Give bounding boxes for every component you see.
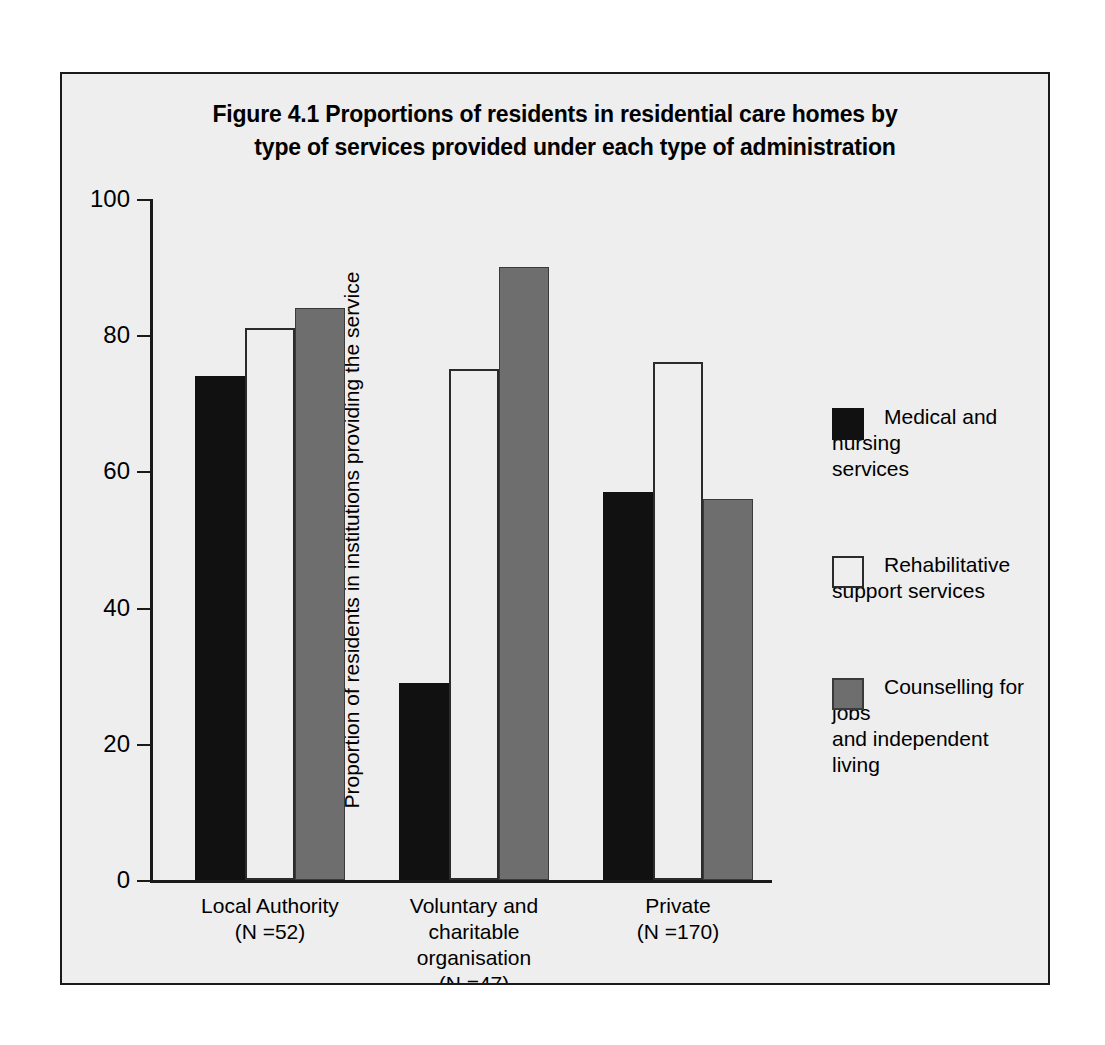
legend-swatch-icon-rehabilitative bbox=[832, 556, 864, 588]
bar-voluntary-medical bbox=[399, 683, 449, 880]
y-tick-label-40: 40 bbox=[103, 594, 130, 622]
bar-local-authority-counselling bbox=[295, 308, 345, 880]
bar-local-authority-medical bbox=[195, 376, 245, 880]
legend: Medical and nursing services Rehabilitat… bbox=[832, 404, 1042, 848]
legend-entry-counselling: Counselling for jobs and independent liv… bbox=[832, 674, 1042, 778]
figure-panel: Figure 4.1 Proportions of residents in r… bbox=[60, 72, 1050, 985]
y-tick-20: 20 bbox=[137, 744, 150, 746]
x-category-label-voluntary: Voluntary and charitable organisation (N… bbox=[374, 893, 574, 985]
plot-area: Proportion of residents in institutions … bbox=[150, 199, 770, 880]
x-category-label-local-authority: Local Authority (N =52) bbox=[170, 893, 370, 945]
y-tick-40: 40 bbox=[137, 608, 150, 610]
bar-private-rehabilitative bbox=[653, 362, 703, 880]
legend-entry-rehabilitative: Rehabilitative support services bbox=[832, 552, 1042, 604]
legend-swatch-icon-counselling bbox=[832, 678, 864, 710]
y-axis-line bbox=[150, 199, 153, 882]
y-tick-label-80: 80 bbox=[103, 321, 130, 349]
bar-local-authority-rehabilitative bbox=[245, 328, 295, 880]
bar-private-counselling bbox=[703, 499, 753, 880]
y-tick-80: 80 bbox=[137, 335, 150, 337]
y-tick-0: 0 bbox=[137, 880, 150, 882]
y-tick-label-20: 20 bbox=[103, 730, 130, 758]
legend-swatch-icon-medical bbox=[832, 408, 864, 440]
title-line-1: Figure 4.1 Proportions of residents in r… bbox=[62, 98, 1048, 131]
y-tick-label-60: 60 bbox=[103, 457, 130, 485]
bar-voluntary-counselling bbox=[499, 267, 549, 880]
y-tick-60: 60 bbox=[137, 471, 150, 473]
bar-voluntary-rehabilitative bbox=[449, 369, 499, 880]
y-tick-label-100: 100 bbox=[90, 185, 130, 213]
y-tick-100: 100 bbox=[137, 199, 150, 201]
x-axis-line bbox=[150, 880, 772, 883]
bar-private-medical bbox=[603, 492, 653, 880]
legend-entry-medical: Medical and nursing services bbox=[832, 404, 1042, 482]
title-line-2: type of services provided under each typ… bbox=[62, 131, 1048, 164]
page-title: Figure 4.1 Proportions of residents in r… bbox=[62, 98, 1048, 164]
x-category-label-private: Private (N =170) bbox=[578, 893, 778, 945]
y-tick-label-0: 0 bbox=[117, 866, 130, 894]
